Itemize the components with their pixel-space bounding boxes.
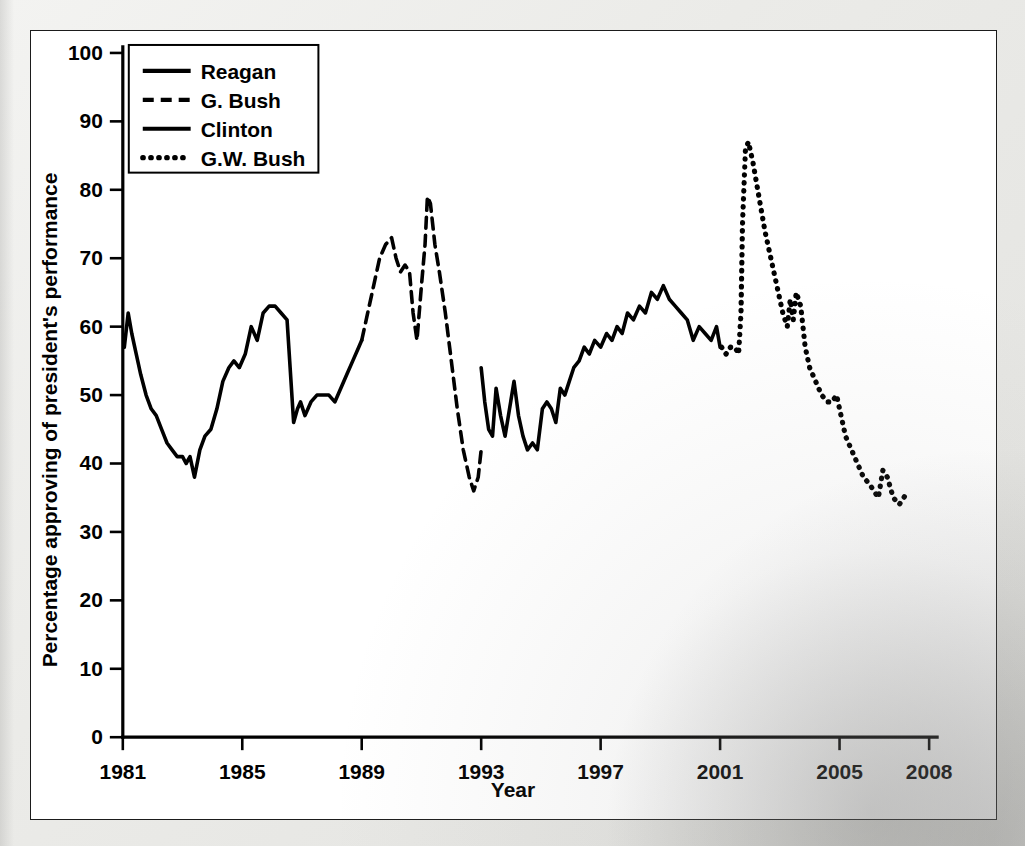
x-tick-label: 2008	[906, 760, 953, 783]
y-tick-label: 80	[80, 178, 103, 201]
x-tick-label: 2005	[816, 760, 863, 783]
y-tick-label: 0	[91, 725, 103, 748]
y-tick-label: 70	[80, 246, 103, 269]
y-axis-title: Percentage approving of president's perf…	[38, 173, 61, 668]
legend-label-reagan: Reagan	[201, 60, 277, 83]
x-tick-label: 1989	[338, 760, 385, 783]
legend-label-g-w-bush: G.W. Bush	[201, 147, 306, 170]
chart-area: 0102030405060708090100 19811985198919931…	[31, 31, 996, 819]
x-tick-label: 2001	[697, 760, 744, 783]
scanned-page-background: 0102030405060708090100 19811985198919931…	[0, 0, 1025, 846]
y-tick-label: 100	[68, 41, 103, 64]
series-line-g-w-bush	[722, 142, 909, 505]
x-tick-label: 1985	[219, 760, 266, 783]
x-axis-title: Year	[491, 778, 535, 801]
x-tick-label: 1981	[100, 760, 147, 783]
legend-label-clinton: Clinton	[201, 118, 273, 141]
data-series-group	[124, 142, 908, 505]
y-tick-label: 10	[80, 657, 103, 680]
y-tick-label: 60	[80, 315, 103, 338]
y-tick-label: 40	[80, 451, 103, 474]
y-tick-label: 50	[80, 383, 103, 406]
y-axis: 0102030405060708090100	[68, 41, 123, 748]
x-axis: 19811985198919931997200120052008	[100, 737, 953, 783]
series-line-clinton	[481, 286, 720, 450]
legend-label-g-bush: G. Bush	[201, 89, 281, 112]
y-tick-label: 20	[80, 588, 103, 611]
figure-panel: 0102030405060708090100 19811985198919931…	[30, 30, 997, 820]
approval-rating-line-chart: 0102030405060708090100 19811985198919931…	[31, 31, 996, 819]
x-tick-label: 1997	[577, 760, 624, 783]
chart-legend: ReaganG. BushClintonG.W. Bush	[129, 45, 319, 173]
series-line-g-bush	[362, 197, 481, 491]
y-tick-label: 90	[80, 109, 103, 132]
y-tick-label: 30	[80, 520, 103, 543]
series-line-reagan	[124, 306, 361, 477]
